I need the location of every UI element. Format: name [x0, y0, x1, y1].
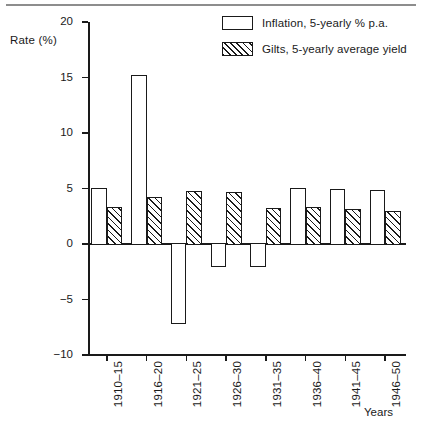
x-tick: [305, 354, 307, 361]
bar-gilts: [345, 209, 361, 245]
y-tick-label: −5: [60, 293, 73, 305]
bar-gilts: [306, 207, 322, 245]
y-tick-label: 0: [67, 237, 73, 249]
x-tick: [225, 354, 227, 361]
bar-gilts: [147, 197, 163, 245]
bar-gilts: [266, 208, 282, 245]
x-tick-label: 1936–40: [311, 361, 323, 407]
x-tick: [345, 354, 347, 361]
x-tick-label: 1941–45: [350, 361, 362, 407]
y-tick: 10: [82, 132, 88, 134]
x-tick-label: 1916–20: [152, 361, 164, 407]
plot-area: 20151050−5−10 1910–151916–201921–251926–…: [88, 22, 406, 355]
x-tick-label: 1931–35: [271, 361, 283, 407]
bar-inflation: [330, 189, 346, 245]
x-tick: [106, 354, 108, 361]
x-tick-label: 1926–30: [231, 361, 243, 407]
x-tick: [186, 354, 188, 361]
y-tick-label: 20: [60, 15, 73, 27]
x-tick: [265, 354, 267, 361]
x-tick: [384, 354, 386, 361]
bar-inflation: [211, 243, 227, 267]
y-tick: 15: [82, 77, 88, 79]
y-axis-title: Rate (%): [10, 34, 57, 46]
top-divider-rule: [6, 4, 416, 6]
y-tick-label: −10: [53, 348, 73, 360]
x-tick: [146, 354, 148, 361]
bar-inflation: [290, 188, 306, 245]
bar-inflation: [131, 75, 147, 245]
y-tick-label: 10: [60, 126, 73, 138]
x-tick-label: 1921–25: [191, 361, 203, 407]
bar-gilts: [385, 211, 401, 245]
bar-gilts: [107, 207, 123, 245]
bar-chart-figure: Rate (%) Years Inflation, 5-yearly % p.a…: [0, 0, 422, 430]
x-tick-label: 1910–15: [112, 361, 124, 407]
y-tick-label: 5: [67, 182, 73, 194]
y-tick: 5: [82, 188, 88, 190]
bar-gilts: [226, 192, 242, 245]
y-tick: 20: [82, 21, 88, 23]
bar-inflation: [370, 190, 386, 245]
y-tick: −5: [82, 299, 88, 301]
x-axis-title: Years: [364, 406, 393, 418]
x-axis-line: [88, 354, 406, 356]
y-tick-label: 15: [60, 71, 73, 83]
bar-inflation: [250, 243, 266, 267]
bar-gilts: [186, 191, 202, 245]
bar-inflation: [171, 243, 187, 323]
y-axis-line: [88, 22, 90, 355]
bar-inflation: [91, 188, 107, 245]
x-tick-label: 1946–50: [390, 361, 402, 407]
